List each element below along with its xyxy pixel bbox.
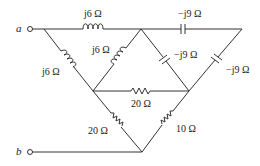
resistor-middle-label: 20 Ω xyxy=(131,99,151,109)
circuit-diagram: a b j6 Ω j6 Ω j6 Ω −j9 Ω −j9 Ω −j9 Ω 20 … xyxy=(0,0,260,166)
terminal-a-label: a xyxy=(16,23,22,34)
resistor-right-label: 10 Ω xyxy=(176,124,196,134)
terminal-b-label: b xyxy=(16,146,22,157)
resistor-left-label: 20 Ω xyxy=(88,126,108,136)
capacitor-middle-label: −j9 Ω xyxy=(174,50,197,60)
capacitor-right-label: −j9 Ω xyxy=(226,65,249,75)
circuit-wires xyxy=(0,0,260,166)
inductor-left-label: j6 Ω xyxy=(42,67,60,77)
inductor-middle-label: j6 Ω xyxy=(92,45,110,55)
inductor-top-label: j6 Ω xyxy=(84,9,102,19)
capacitor-top-label: −j9 Ω xyxy=(178,9,201,19)
